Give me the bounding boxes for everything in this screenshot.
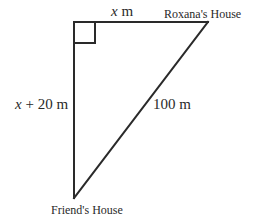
friends-house-label: Friend's House [51,204,123,216]
right-angle-marker [74,22,95,43]
hypotenuse-label: 100 m [153,97,191,112]
top-side-variable: x [111,3,118,19]
roxanas-house-label: Roxana's House [164,8,241,20]
left-side-variable: x [15,96,22,112]
left-side-expression: + 20 m [22,96,68,112]
top-side-unit: m [118,3,133,19]
top-side-label: x m [111,4,133,19]
left-side-label: x + 20 m [15,97,68,112]
